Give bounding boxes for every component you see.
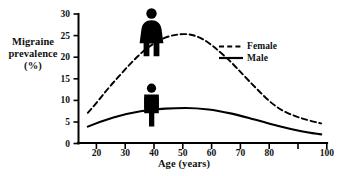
x-tick-label-80: 80 (258, 148, 280, 159)
data-series (88, 34, 321, 134)
x-tick-label-50: 50 (172, 148, 194, 159)
x-tick-label-100: 100 (316, 148, 338, 159)
x-axis-title: Age (years) (120, 158, 248, 170)
y-tick-label-5: 5 (50, 117, 70, 128)
y-tick-label-15: 15 (50, 74, 70, 85)
migraine-prevalence-chart: Migraine prevalence (%) Age (years) 0 5 … (0, 0, 344, 176)
y-tick-label-20: 20 (50, 52, 70, 63)
y-tick-label-0: 0 (50, 139, 70, 150)
y-tick-label-10: 10 (50, 95, 70, 106)
y-tick-label-30: 30 (50, 9, 70, 20)
legend-label-female: Female (247, 41, 277, 52)
female-pictogram-icon (140, 8, 164, 56)
x-tick-label-30: 30 (114, 148, 136, 159)
legend-label-male: Male (247, 53, 268, 64)
legend-line-samples (219, 47, 243, 59)
x-tick-label-60: 60 (201, 148, 223, 159)
y-tick-label-25: 25 (50, 31, 70, 42)
male-pictogram-icon (144, 84, 159, 127)
x-tick-label-40: 40 (143, 148, 165, 159)
x-tick-label-20: 20 (85, 148, 107, 159)
x-tick-label-70: 70 (229, 148, 251, 159)
